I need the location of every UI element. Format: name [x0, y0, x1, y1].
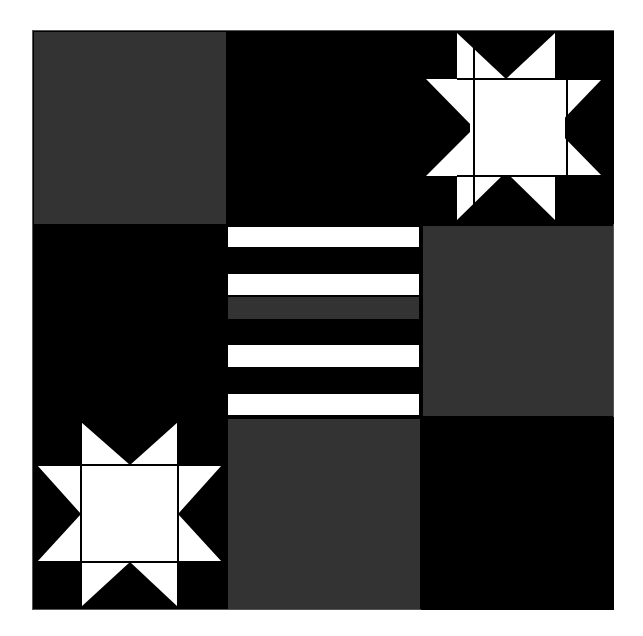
stripe-gray-1: [228, 297, 419, 319]
stripes-block-center: [226, 225, 421, 417]
stripe-white-2: [228, 274, 419, 295]
cell-gray-top-left: [34, 32, 226, 224]
stripe-black-1: [228, 247, 419, 273]
cell-gray-middle-right: [423, 226, 613, 416]
cell-black-middle-left: [33, 225, 226, 417]
cell-gray-bottom-center: [228, 419, 420, 609]
stripe-black-2: [228, 319, 419, 345]
star-block-top-right: [421, 31, 614, 224]
cell-black-bottom-right: [421, 417, 614, 610]
stripe-white-1: [228, 227, 419, 247]
star-icon: [33, 417, 226, 609]
star-icon: [421, 31, 614, 224]
stripe-white-3: [228, 345, 419, 367]
stripe-black-3: [228, 367, 419, 394]
star-block-bottom-left: [33, 417, 226, 609]
quilt-block: [32, 30, 614, 610]
stripe-white-4: [228, 394, 419, 415]
cell-black-top-center: [226, 31, 421, 225]
